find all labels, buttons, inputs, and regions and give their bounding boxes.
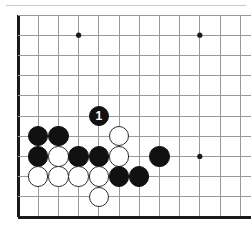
star-point-hoshi [197,154,202,159]
stone-white-f7[interactable] [109,146,129,166]
stone-white-e8[interactable] [89,166,109,186]
go-board[interactable]: 1 [0,0,251,236]
stone-white-e9[interactable] [89,187,109,207]
stone-black-h7[interactable] [149,146,169,166]
stone-black-d7[interactable] [68,146,88,166]
star-point-hoshi [197,33,202,38]
stone-move-number: 1 [90,107,108,125]
stone-white-c8[interactable] [48,166,68,186]
go-diagram-figure: 1 [0,0,251,236]
stone-black-b7[interactable] [28,146,48,166]
stone-black-e7[interactable] [89,146,109,166]
stone-black-g8[interactable] [129,166,149,186]
stone-white-d8[interactable] [68,166,88,186]
stone-white-b8[interactable] [28,166,48,186]
star-point-hoshi [76,33,81,38]
stone-white-c7[interactable] [48,146,68,166]
stone-black-f8[interactable] [109,166,129,186]
board-grid [0,0,251,236]
stone-black-c6b[interactable] [48,126,68,146]
stone-black-move-1[interactable]: 1 [89,106,109,126]
